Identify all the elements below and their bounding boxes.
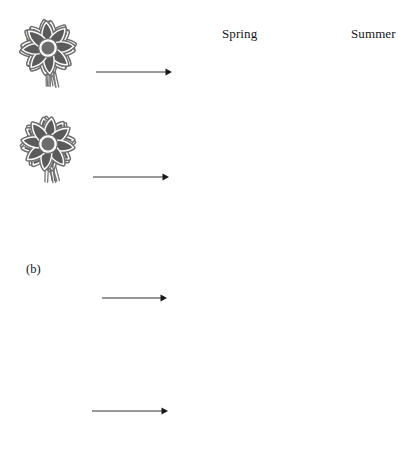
flower-dark — [0, 96, 96, 192]
arrow-right — [83, 167, 179, 187]
flower-center-disc — [40, 40, 55, 55]
column-header-spring: Spring — [222, 27, 257, 40]
arrow-right — [82, 401, 178, 421]
column-header-summer: Summer — [351, 27, 396, 40]
arrow-right — [86, 62, 182, 82]
arrow-right — [92, 288, 177, 308]
arrow-head — [161, 295, 168, 302]
flower-dark — [0, 0, 96, 96]
arrow-head — [166, 69, 173, 76]
figure-canvas: Spring Summer (a) (b) — [0, 0, 398, 469]
arrow-head — [162, 408, 169, 415]
panel-label-b: (b) — [26, 263, 41, 276]
arrow-head — [163, 174, 170, 181]
